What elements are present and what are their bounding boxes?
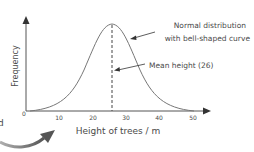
tick-30: 30 [122, 114, 130, 121]
annotation-mean-pointer [118, 64, 145, 70]
edge-text-fragment: d [0, 118, 4, 128]
tick-0: 0 [22, 110, 26, 117]
annotation-mean: Mean height (26) [149, 61, 214, 70]
annotation-mean-arrow-icon [114, 67, 120, 72]
annotation-normal-line1: Normal distribution [174, 21, 247, 30]
annotation-normal-line2: with bell-shaped curve [165, 34, 251, 43]
tick-10: 10 [55, 114, 63, 121]
tick-50: 50 [189, 114, 197, 121]
annotation-normal-arrow-icon [130, 36, 137, 41]
curved-arrow-icon [0, 138, 44, 147]
annotation-normal-pointer [134, 32, 155, 38]
y-axis-arrow-icon [23, 16, 30, 24]
x-axis-arrow-icon [203, 108, 211, 115]
x-axis-label: Height of trees / m [76, 126, 160, 136]
bell-curve-chart: 0 10 20 30 40 50 Height of trees / m Fre… [0, 0, 254, 152]
y-axis-label: Frequency [11, 45, 20, 87]
tick-20: 20 [89, 114, 97, 121]
tick-40: 40 [155, 114, 163, 121]
